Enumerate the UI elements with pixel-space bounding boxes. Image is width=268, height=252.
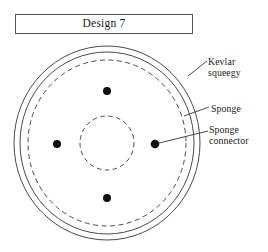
leader-line-kevlar (188, 61, 207, 76)
sponge-connector-bottom (103, 194, 111, 202)
page-title: Design 7 (83, 18, 126, 30)
inner-hub-dashed (80, 116, 134, 170)
sponge-label: Sponge (211, 103, 241, 114)
sponge-connector-left (53, 140, 61, 148)
middle-ring (20, 52, 194, 234)
sponge-connector-top (103, 87, 111, 95)
design-figure: Design 7 Kevlar squeegy Sponge Sponge co… (0, 0, 268, 252)
outer-ring-kevlar-squeegy (14, 46, 200, 240)
sponge-connector-right (151, 140, 160, 149)
kevlar-squeegy-label: Kevlar squeegy (208, 56, 241, 79)
sponge-connector-label: Sponge connector (209, 124, 249, 147)
design-title-box: Design 7 (15, 14, 193, 34)
